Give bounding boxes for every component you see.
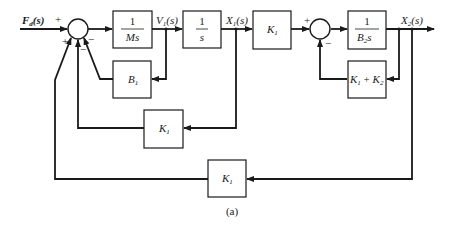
- block-1-over-b2s: 1 B2s: [348, 11, 386, 49]
- x2-branch-point-inner: [397, 27, 400, 30]
- k1-outer-feedback-loop: [55, 29, 412, 179]
- block-label: K1 + K2: [349, 73, 384, 87]
- sign-minus: −: [325, 37, 331, 49]
- sign-minus-middle-k1: −: [80, 43, 86, 55]
- signal-label-x2: X2(s): [400, 14, 423, 28]
- x2-to-k1k2-wire: [387, 29, 399, 79]
- summing-junction-circle: [68, 19, 88, 39]
- block-numerator: 1: [130, 15, 136, 27]
- block-k1-forward: K1: [253, 11, 291, 49]
- block-k1-outer: K1: [208, 160, 246, 197]
- block-k1-middle: K1: [144, 110, 183, 148]
- block-integrator: 1 s: [183, 11, 221, 48]
- sign-plus-input: +: [55, 13, 61, 25]
- sign-minus-b1: −: [88, 33, 94, 45]
- sign-plus-outer-k1: +: [62, 35, 68, 47]
- block-denominator: s: [200, 31, 204, 43]
- signal-label-x1: X1(s): [225, 14, 248, 28]
- signal-label-v1: V1(s): [156, 14, 178, 28]
- x2-to-k1-wire: [247, 29, 412, 179]
- block-denominator: Ms: [125, 31, 139, 43]
- block-1-over-ms: 1 Ms: [113, 11, 152, 48]
- block-b1: B1: [113, 61, 151, 98]
- block-diagram: + + − − + − 1 Ms 1 s B1 K1 1 B2s: [0, 0, 452, 227]
- signal-label-fd: Fd(s): [21, 14, 44, 28]
- block-numerator: 1: [364, 15, 370, 27]
- block-numerator: 1: [199, 15, 205, 27]
- sign-plus: +: [304, 14, 310, 26]
- v1-to-b1-wire: [152, 29, 166, 79]
- summing-junction-circle: [310, 19, 330, 39]
- summing-junction-2: + −: [304, 14, 331, 49]
- figure-caption: (a): [226, 205, 239, 218]
- block-k1-plus-k2: K1 + K2: [348, 61, 386, 98]
